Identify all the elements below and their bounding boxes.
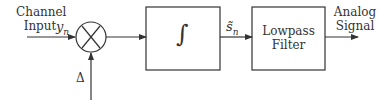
integrator-output-symbol: s̃n	[226, 20, 238, 39]
multiplier-icon	[76, 22, 106, 52]
integral-icon: ∫	[176, 20, 189, 48]
output-label: Analog Signal	[330, 6, 380, 33]
step-label: Δ	[76, 72, 85, 85]
filter-label: Lowpass Filter	[252, 25, 325, 52]
filter-label-line1: Lowpass	[252, 25, 325, 38]
input-symbol: yn	[56, 20, 69, 39]
output-label-line2: Signal	[330, 20, 380, 33]
input-label-line1: Channel	[16, 6, 64, 19]
output-label-line1: Analog	[330, 6, 380, 19]
filter-label-line2: Filter	[252, 39, 325, 52]
